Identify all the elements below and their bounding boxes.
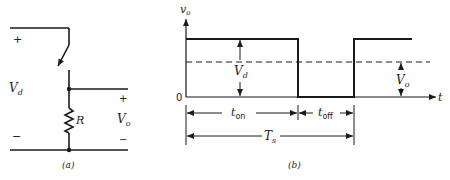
figure: + Vd − R + Vo − (a) vo t 0 Vd — [0, 0, 450, 180]
t-on-label: ton — [231, 106, 245, 121]
caption-a: (a) — [62, 160, 75, 170]
pulse-waveform — [186, 39, 412, 97]
x-axis-label: t — [438, 91, 443, 104]
t-off-label: toff — [318, 106, 333, 121]
average-label: Vo — [396, 73, 410, 89]
switch-blade — [58, 45, 69, 66]
source-minus: − — [12, 130, 21, 143]
resistor — [65, 108, 73, 133]
output-minus: − — [119, 134, 127, 145]
output-plus: + — [119, 93, 127, 104]
caption-b: (b) — [288, 160, 301, 170]
resistor-label: R — [75, 114, 84, 127]
y-axis-label: vo — [180, 3, 190, 17]
amplitude-label: Vd — [234, 64, 248, 80]
node-bottom — [67, 148, 71, 152]
output-voltage-label: Vo — [117, 112, 131, 128]
period-label: Ts — [264, 129, 276, 145]
source-voltage-label: Vd — [9, 81, 23, 97]
node-top — [67, 87, 71, 91]
zero-label: 0 — [176, 92, 182, 103]
source-plus: + — [13, 33, 22, 46]
